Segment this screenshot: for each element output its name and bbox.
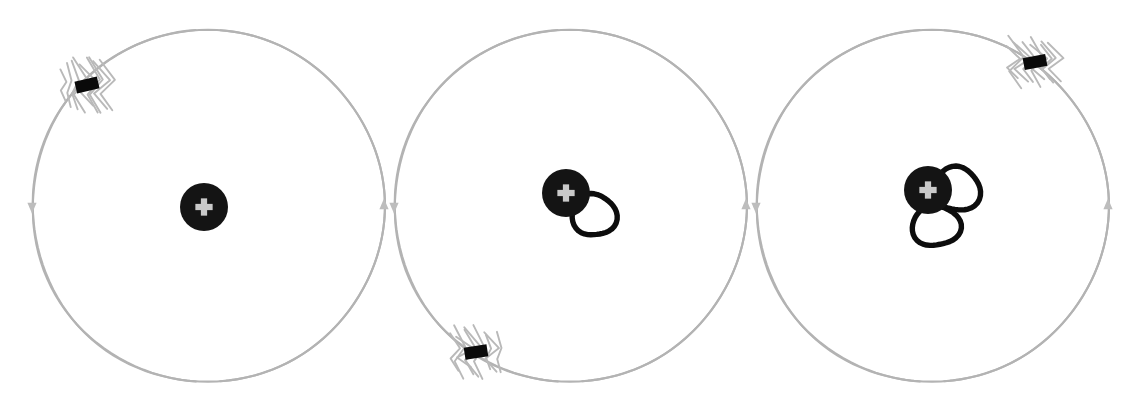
nucleus: nucleus (+): [904, 166, 952, 214]
orbit-direction-arrow-left: [27, 203, 36, 214]
atom-sequence-diagram: Atom with electron in orbit, no photons …: [0, 0, 1140, 412]
figure-canvas: Three hand-drawn atom diagrams in a row.…: [0, 0, 1140, 412]
orbit-direction-arrow-left: [751, 203, 760, 214]
nucleus-plus-icon: [201, 198, 207, 215]
atom-two-photons: Atom after emitting two photons; electro…: [751, 30, 1112, 382]
electron: electron (−): [464, 344, 489, 359]
nucleus-plus-icon: [563, 184, 569, 201]
orbit-direction-arrow-right: [379, 199, 388, 210]
nucleus: nucleus (+): [542, 169, 590, 217]
orbit-direction-arrow-left: [389, 203, 398, 214]
nucleus-plus-icon: [925, 181, 931, 198]
orbit-direction-arrow-right: [741, 199, 750, 210]
atom-one-photon: Atom after emitting one photon; electron…: [389, 30, 750, 382]
orbit-direction-arrow-right: [1103, 199, 1112, 210]
electron-minus-icon: [464, 344, 489, 359]
vibration-stroke: [60, 69, 66, 100]
atom-unexcited: Atom with electron in orbit, no photons …: [27, 30, 388, 382]
nucleus: nucleus (+): [180, 183, 228, 231]
